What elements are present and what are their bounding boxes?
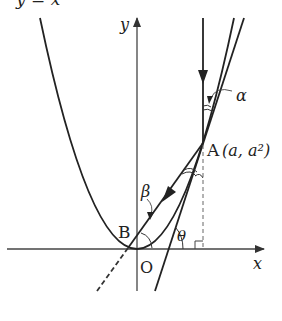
angle-arc-alpha-2 <box>203 109 212 111</box>
incident-arrow-icon <box>198 70 208 84</box>
point-a-coords: (a, a²) <box>222 141 270 160</box>
curve-label: y = x² <box>15 0 67 9</box>
parabola-reflection-diagram: y = x² y x O α A (a, a²) β B θ <box>0 0 282 321</box>
origin-label: O <box>140 258 153 277</box>
reflected-ray-extension <box>97 248 128 291</box>
point-a-label: A <box>206 140 220 160</box>
alpha-leader-arrow-icon <box>207 96 213 104</box>
angle-arc-single-lower <box>195 174 203 178</box>
beta-label: β <box>140 182 150 201</box>
alpha-leader <box>211 90 232 98</box>
reflected-arrow-icon <box>162 186 176 202</box>
point-b-label: B <box>118 222 131 242</box>
angle-arc-alpha <box>203 105 211 107</box>
right-angle-marker <box>195 241 203 249</box>
angle-arc-beta <box>141 233 152 248</box>
theta-label: θ <box>177 227 186 245</box>
y-axis-label: y <box>119 15 130 34</box>
beta-leader <box>147 199 152 214</box>
x-axis-label: x <box>253 254 262 273</box>
alpha-label: α <box>236 86 247 105</box>
